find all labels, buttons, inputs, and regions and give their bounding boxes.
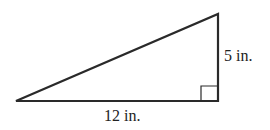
right-angle-marker bbox=[201, 86, 218, 101]
base-label: 12 in. bbox=[104, 107, 140, 125]
height-label: 5 in. bbox=[224, 47, 252, 65]
right-triangle bbox=[16, 14, 218, 101]
